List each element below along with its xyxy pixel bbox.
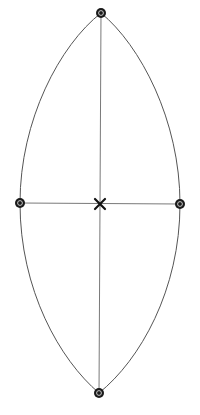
curve-top-right — [101, 13, 180, 204]
node-top[interactable] — [96, 8, 106, 18]
curve-right-bottom — [99, 204, 180, 393]
node-circle-icon — [94, 388, 104, 398]
curve-left-bottom — [20, 203, 99, 393]
node-right[interactable] — [175, 199, 185, 209]
node-circle-icon — [175, 199, 185, 209]
node-circle-icon — [96, 8, 106, 18]
node-bottom[interactable] — [94, 388, 104, 398]
diagram-canvas — [0, 0, 200, 415]
node-left[interactable] — [15, 198, 25, 208]
node-circle-icon — [15, 198, 25, 208]
curve-top-left — [20, 13, 101, 203]
